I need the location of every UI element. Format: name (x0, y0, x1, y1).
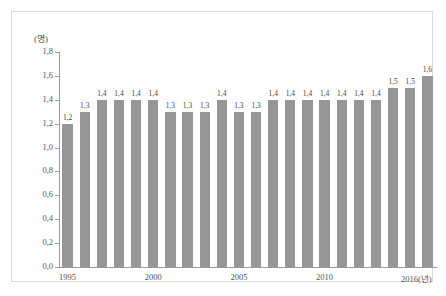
bar-slot: 1,4 (128, 52, 145, 267)
y-axis-tick-label: 0,8 (42, 165, 53, 175)
bar[interactable] (405, 88, 415, 267)
bar[interactable] (182, 112, 192, 267)
y-axis-tick-label: 1,6 (42, 70, 53, 80)
bar-value-label: 1,4 (286, 90, 295, 98)
bar[interactable] (388, 88, 398, 267)
bar-slot: 1,3 (196, 52, 213, 267)
bar-slot: 1,4 (145, 52, 162, 267)
bar-slot: 1,4 (333, 52, 350, 267)
chart-page: (명) 0,00,20,40,60,81,01,21,41,61,8 1,21,… (0, 0, 446, 296)
bar[interactable] (114, 100, 124, 267)
bar[interactable] (234, 112, 244, 267)
bar-slot: 1,3 (76, 52, 93, 267)
bar-value-label: 1,3 (234, 102, 243, 110)
bar-slot: 1,5 (385, 52, 402, 267)
bar[interactable] (62, 124, 72, 267)
x-axis-tick-label: 2010 (316, 272, 333, 282)
bar-slot: 1,3 (230, 52, 247, 267)
y-axis-tick-label: 1,8 (42, 46, 53, 56)
bar-slot: 1,4 (282, 52, 299, 267)
bar[interactable] (97, 100, 107, 267)
bar-value-label: 1,4 (269, 90, 278, 98)
y-axis-tick-mark (55, 267, 60, 268)
bar[interactable] (285, 100, 295, 267)
y-axis-tick-label: 1,4 (42, 94, 53, 104)
bar-value-label: 1,3 (251, 102, 260, 110)
bar[interactable] (251, 112, 261, 267)
bar[interactable] (337, 100, 347, 267)
bar-slot: 1,4 (350, 52, 367, 267)
bar-slot: 1,2 (59, 52, 76, 267)
bar-slot: 1,4 (299, 52, 316, 267)
x-axis-tick-label: 2016(년) (401, 272, 432, 284)
bar-value-label: 1,4 (371, 90, 380, 98)
bar-value-label: 1,3 (183, 102, 192, 110)
y-axis-unit-label: (명) (34, 32, 48, 45)
bar-value-label: 1,3 (200, 102, 209, 110)
bar-series: 1,21,31,41,41,41,41,31,31,31,41,31,31,41… (59, 52, 436, 267)
x-axis-line (59, 267, 437, 268)
bar-value-label: 1,2 (63, 114, 72, 122)
bar-value-label: 1,4 (354, 90, 363, 98)
y-axis-tick-label: 1,0 (42, 142, 53, 152)
bar-value-label: 1,4 (131, 90, 140, 98)
bar[interactable] (148, 100, 158, 267)
bar[interactable] (131, 100, 141, 267)
bar-value-label: 1,4 (303, 90, 312, 98)
bar-value-label: 1,4 (97, 90, 106, 98)
bar-slot: 1,4 (265, 52, 282, 267)
bar[interactable] (80, 112, 90, 267)
bar[interactable] (302, 100, 312, 267)
bar-slot: 1,5 (402, 52, 419, 267)
bar[interactable] (319, 100, 329, 267)
bar-value-label: 1,3 (80, 102, 89, 110)
bar-value-label: 1,4 (337, 90, 346, 98)
bar-slot: 1,4 (213, 52, 230, 267)
bar[interactable] (371, 100, 381, 267)
bar-value-label: 1,4 (114, 90, 123, 98)
bar[interactable] (268, 100, 278, 267)
y-axis-tick-label: 0,4 (42, 213, 53, 223)
bar-value-label: 1,4 (217, 90, 226, 98)
y-axis-tick-label: 0,2 (42, 237, 53, 247)
bar[interactable] (217, 100, 227, 267)
bar[interactable] (200, 112, 210, 267)
bar-slot: 1,4 (316, 52, 333, 267)
bar[interactable] (354, 100, 364, 267)
bar-slot: 1,3 (162, 52, 179, 267)
bar-slot: 1,3 (179, 52, 196, 267)
x-axis-tick-label: 2000 (145, 272, 162, 282)
bar[interactable] (165, 112, 175, 267)
bar-value-label: 1,5 (388, 78, 397, 86)
figure-frame: (명) 0,00,20,40,60,81,01,21,41,61,8 1,21,… (11, 11, 433, 282)
x-axis-tick-label: 2005 (230, 272, 247, 282)
bar-value-label: 1,3 (166, 102, 175, 110)
bar[interactable] (422, 76, 432, 267)
bar-slot: 1,4 (93, 52, 110, 267)
x-axis-tick-label: 1995 (59, 272, 76, 282)
bar-value-label: 1,6 (423, 66, 432, 74)
x-axis-labels: 19952000200520102016(년) (59, 270, 437, 286)
y-axis-tick-label: 1,2 (42, 118, 53, 128)
bar-slot: 1,3 (248, 52, 265, 267)
bar-value-label: 1,4 (149, 90, 158, 98)
bar-value-label: 1,5 (406, 78, 415, 86)
bar-slot: 1,6 (419, 52, 436, 267)
bar-slot: 1,4 (110, 52, 127, 267)
bar-value-label: 1,4 (320, 90, 329, 98)
y-axis-tick-label: 0,0 (42, 261, 53, 271)
bar-slot: 1,4 (367, 52, 384, 267)
y-axis-tick-label: 0,6 (42, 189, 53, 199)
